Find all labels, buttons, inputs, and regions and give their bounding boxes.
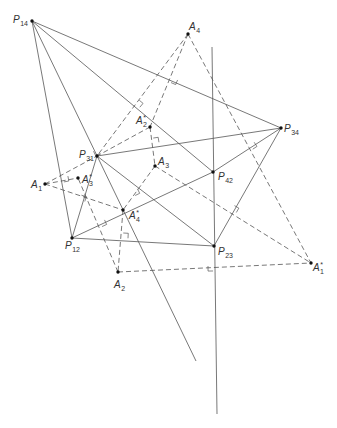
point-A4 <box>186 32 189 35</box>
geometry-figure: P14A4A*2P34P31A3A1A*3P42A*4P12P23A*1A2 <box>0 0 337 428</box>
point-A3 <box>153 164 156 167</box>
pole-construction-diagram: P14A4A*2P34P31A3A1A*3P42A*4P12P23A*1A2 <box>0 0 337 428</box>
label-A3s: A*3 <box>81 173 93 187</box>
label-A1s: A*1 <box>312 261 324 275</box>
point-P31 <box>95 154 98 157</box>
point-P23 <box>212 244 215 247</box>
point-A4s <box>121 208 124 211</box>
point-A2s <box>148 125 151 128</box>
point-A3s <box>76 176 79 179</box>
point-A2 <box>116 270 119 273</box>
point-P34 <box>279 126 282 129</box>
point-P14 <box>30 19 33 22</box>
point-P42 <box>211 170 214 173</box>
label-A4s: A*4 <box>128 209 140 223</box>
label-A2s: A*2 <box>135 114 147 128</box>
point-A1 <box>43 182 46 185</box>
figure-background <box>0 0 337 428</box>
